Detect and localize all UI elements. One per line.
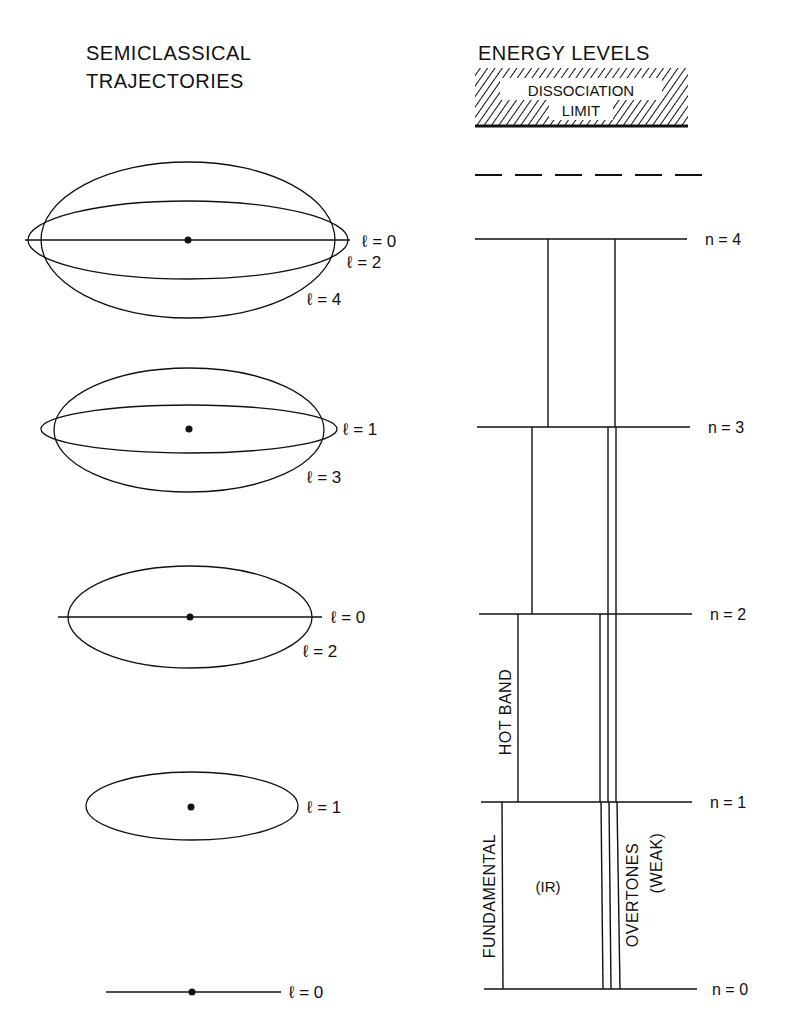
nucleus-dot (187, 614, 194, 621)
label-l0: ℓ = 0 (288, 983, 323, 1002)
nucleus-dot (185, 237, 192, 244)
title-trajectories: TRAJECTORIES (86, 70, 244, 92)
limit-label: LIMIT (562, 102, 600, 119)
label-l2: ℓ = 2 (302, 642, 337, 661)
label-l0: ℓ = 0 (361, 232, 396, 251)
level-label-n2: n = 2 (710, 606, 746, 623)
trajectory-group-n0 (106, 989, 281, 996)
trajectory-group-n2 (58, 566, 322, 668)
nucleus-dot (186, 426, 193, 433)
level-label-n4: n = 4 (705, 231, 741, 248)
label-l2: ℓ = 2 (346, 253, 381, 272)
level-label-n0: n = 0 (712, 981, 748, 998)
diagram-canvas: SEMICLASSICAL TRAJECTORIES ℓ = 0 ℓ = 2 ℓ… (0, 0, 788, 1027)
trajectory-group-n3 (41, 368, 337, 492)
hot-band-label: HOT BAND (497, 669, 514, 755)
nucleus-dot (188, 804, 195, 811)
dissociation-label: DISSOCIATION (528, 82, 634, 99)
ir-label: (IR) (536, 878, 561, 895)
trajectory-group-n4 (25, 162, 350, 318)
level-label-n1: n = 1 (710, 794, 746, 811)
level-label-n3: n = 3 (708, 419, 744, 436)
label-l3: ℓ = 3 (306, 468, 341, 487)
trajectory-group-n1 (86, 772, 298, 840)
label-l1: ℓ = 1 (306, 798, 341, 817)
dissociation-limit-box: DISSOCIATION LIMIT (475, 68, 688, 126)
label-l1: ℓ = 1 (342, 420, 377, 439)
label-l0: ℓ = 0 (330, 608, 365, 627)
fundamental-label: FUNDAMENTAL (481, 834, 498, 958)
nucleus-dot (189, 989, 196, 996)
title-semiclassical: SEMICLASSICAL (86, 42, 251, 64)
label-l4: ℓ = 4 (306, 290, 341, 309)
weak-label: (WEAK) (648, 833, 665, 894)
overtones-label: OVERTONES (624, 843, 641, 947)
left-panel-title: SEMICLASSICAL TRAJECTORIES (86, 42, 251, 92)
title-energy-levels: ENERGY LEVELS (478, 42, 650, 64)
